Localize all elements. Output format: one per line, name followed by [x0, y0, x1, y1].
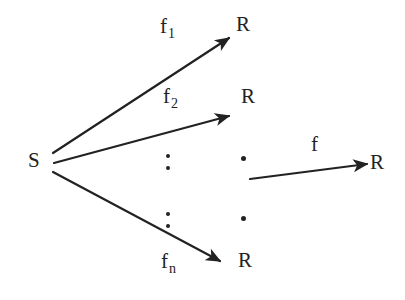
arrow-fn-label: fn — [161, 251, 176, 276]
arrow-f2-label-subscript: 2 — [171, 96, 178, 111]
source-node-label: S — [28, 150, 40, 171]
dot-lower-icon — [241, 216, 246, 221]
arrow-f-label: f — [311, 134, 319, 159]
arrow-fn-line — [53, 172, 220, 261]
arrow-f2-line — [54, 116, 229, 163]
arrow-f1-line — [53, 38, 229, 153]
arrow-f-label-base: f — [311, 132, 319, 156]
arrow-fn-label-subscript: n — [169, 261, 176, 276]
vdots-lower-icon — [166, 212, 170, 228]
target-r1-label: R — [236, 14, 251, 35]
arrow-f2-label-base: f — [163, 84, 171, 108]
diagram-canvas: S f1 f2 fn f R R R R — [0, 0, 405, 300]
arrow-f-line — [250, 164, 367, 179]
vdots-upper-icon — [166, 154, 170, 170]
target-r-final-label: R — [370, 152, 385, 173]
arrow-fn-label-base: f — [161, 249, 169, 273]
diagram-vector-layer — [0, 0, 405, 300]
arrow-f2-label: f2 — [163, 86, 178, 111]
arrow-f1-label: f1 — [160, 16, 175, 41]
target-r2-label: R — [241, 86, 256, 107]
target-rn-label: R — [238, 250, 253, 271]
arrow-f1-label-base: f — [160, 14, 168, 38]
arrow-f1-label-subscript: 1 — [168, 26, 175, 41]
dot-upper-icon — [241, 156, 246, 161]
